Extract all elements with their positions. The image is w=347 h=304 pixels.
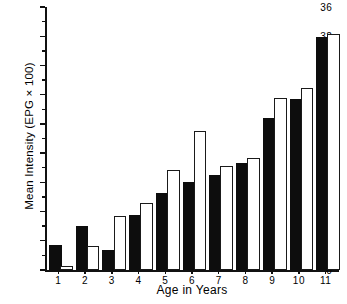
bar-open-bar-age-3: [114, 216, 127, 270]
x-tick-11: [325, 270, 326, 274]
bar-open-bar-age-6: [194, 131, 207, 270]
x-tick-10: [298, 270, 299, 274]
y-minor-tick-26: [42, 79, 45, 80]
y-tick-32: [40, 36, 45, 37]
y-tick-16: [40, 152, 45, 153]
y-minor-tick-14: [42, 167, 45, 168]
x-tick-5: [165, 270, 166, 274]
y-axis-title: Mean Intensity (EPG × 100): [23, 11, 35, 261]
y-minor-tick-22: [42, 109, 45, 110]
x-tick-9: [271, 270, 272, 274]
plot-area: 04812162024283236 1234567891011: [45, 7, 339, 270]
y-tick-28: [40, 65, 45, 66]
bar-open-bar-age-1: [60, 266, 73, 270]
y-minor-tick-18: [42, 138, 45, 139]
y-tick-label-36: 36: [320, 2, 332, 13]
y-minor-tick-34: [42, 21, 45, 22]
bar-open-bar-age-7: [220, 166, 233, 270]
y-tick-24: [40, 94, 45, 95]
bar-open-bar-age-5: [167, 170, 180, 270]
y-tick-8: [40, 211, 45, 212]
x-tick-8: [245, 270, 246, 274]
y-tick-20: [40, 123, 45, 124]
bar-open-bar-age-10: [301, 88, 314, 270]
y-tick-36: [40, 6, 45, 7]
bar-open-bar-age-4: [140, 203, 153, 270]
x-tick-3: [111, 270, 112, 274]
x-tick-6: [191, 270, 192, 274]
y-minor-tick-6: [42, 225, 45, 226]
y-tick-0: [40, 269, 45, 270]
bar-open-bar-age-9: [274, 98, 287, 270]
y-minor-tick-30: [42, 50, 45, 51]
bar-open-bar-age-8: [247, 158, 260, 270]
x-tick-7: [218, 270, 219, 274]
x-tick-2: [84, 270, 85, 274]
y-tick-12: [40, 182, 45, 183]
x-axis-title: Age in Years: [45, 283, 339, 297]
x-tick-4: [138, 270, 139, 274]
y-minor-tick-2: [42, 255, 45, 256]
y-axis-line: [45, 7, 47, 270]
y-minor-tick-10: [42, 196, 45, 197]
bar-chart-figure: Mean Intensity (EPG × 100) 0481216202428…: [0, 0, 347, 304]
bar-open-bar-age-2: [87, 246, 100, 270]
x-tick-1: [58, 270, 59, 274]
y-tick-4: [40, 240, 45, 241]
bar-open-bar-age-11: [327, 34, 340, 270]
